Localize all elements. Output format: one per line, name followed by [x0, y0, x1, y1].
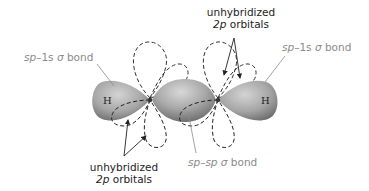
- label-orbitals: orbitals: [109, 173, 152, 185]
- right-sp-1s-sigma-bond-label: sp–1s σ bond: [282, 41, 351, 53]
- carbon-nucleus-left: [148, 98, 152, 102]
- label-mid: 1s: [41, 51, 53, 63]
- sp-sp-sigma-bond-label: sp–sp σ bond: [188, 156, 257, 168]
- label-prefix: sp: [24, 51, 36, 63]
- label-orbitals: orbitals: [226, 18, 269, 30]
- label-mid: 1s: [299, 41, 311, 53]
- label-2p: 2p: [96, 173, 109, 185]
- label-sigma: σ: [218, 156, 228, 168]
- carbon-nucleus-right: [216, 98, 220, 102]
- label-line2: 2p orbitals: [86, 173, 162, 185]
- label-line2: 2p orbitals: [203, 18, 279, 30]
- ethyne-orbital-diagram: H H sp–1s σ bond sp–1s σ bond sp–sp σ bo…: [0, 0, 369, 191]
- label-prefix: sp: [188, 156, 200, 168]
- label-line1: unhybridized: [203, 6, 279, 18]
- top-unhybridized-2p-label: unhybridized 2p orbitals: [203, 6, 279, 30]
- label-suffix: bond: [64, 51, 94, 63]
- label-suffix: bond: [228, 156, 258, 168]
- label-sigma: σ: [312, 41, 322, 53]
- h-left-label: H: [103, 95, 112, 106]
- label-prefix: sp: [282, 41, 294, 53]
- label-suffix: bond: [322, 41, 352, 53]
- label-line1: unhybridized: [86, 161, 162, 173]
- central-sp-sp-lobe: [152, 79, 216, 122]
- label-sigma: σ: [54, 51, 64, 63]
- bottom-unhybridized-2p-label: unhybridized 2p orbitals: [86, 161, 162, 185]
- h-right-label: H: [261, 95, 270, 106]
- label-mid: sp: [205, 156, 217, 168]
- left-sp-1s-sigma-bond-label: sp–1s σ bond: [24, 51, 93, 63]
- orbital-drawing: H H: [0, 0, 369, 191]
- label-2p: 2p: [213, 18, 226, 30]
